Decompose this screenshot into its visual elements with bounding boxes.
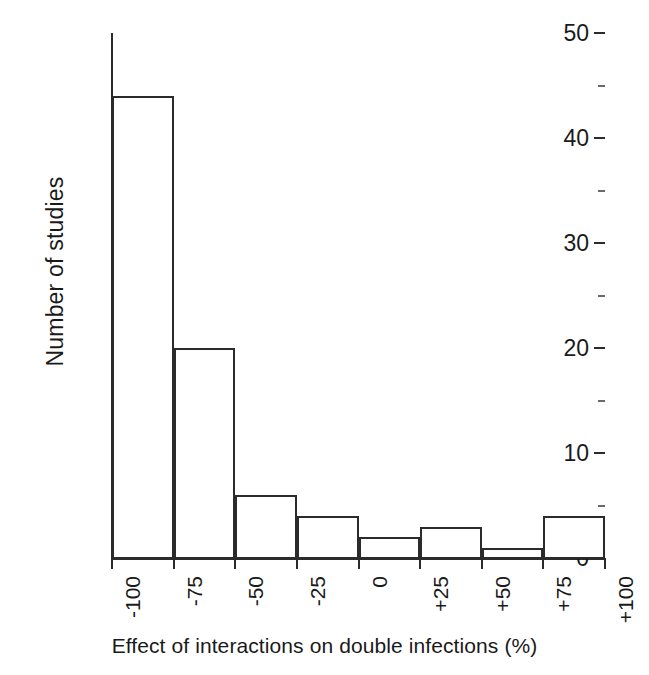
plot-area: 01020304050 -100-75-50-250+25+50+75+100 (112, 33, 605, 558)
y-tick-label: 20 (563, 335, 589, 362)
y-tick-major (594, 452, 605, 454)
histogram-figure: Number of studies 01020304050 -100-75-50… (0, 0, 649, 675)
y-axis-title: Number of studies (42, 122, 69, 422)
y-tick-major (594, 137, 605, 139)
histogram-bar (112, 96, 174, 559)
histogram-bar (543, 516, 605, 559)
x-tick (173, 558, 175, 569)
x-tick-label: +25 (429, 576, 453, 612)
x-tick-label: -50 (244, 576, 268, 606)
y-tick-label: 40 (563, 125, 589, 152)
histogram-bar (235, 495, 297, 559)
histogram-bar (174, 348, 236, 559)
y-tick-minor (598, 85, 605, 87)
x-tick-label: -25 (306, 576, 330, 606)
histogram-bar (297, 516, 359, 559)
histogram-bar (420, 527, 482, 560)
y-tick-label: 10 (563, 440, 589, 467)
x-tick (296, 558, 298, 569)
y-tick-label: 50 (563, 20, 589, 47)
y-tick-minor (598, 400, 605, 402)
y-tick-minor (598, 505, 605, 507)
y-tick-major (594, 347, 605, 349)
x-tick (542, 558, 544, 569)
x-tick (234, 558, 236, 569)
x-tick-label: +75 (552, 576, 576, 612)
x-tick (358, 558, 360, 569)
x-tick-label: 0 (368, 576, 392, 588)
histogram-bar (482, 548, 544, 560)
x-tick-label: -75 (183, 576, 207, 606)
y-tick-label: 30 (563, 230, 589, 257)
x-tick (604, 558, 606, 569)
x-tick-label: +50 (491, 576, 515, 612)
x-tick (481, 558, 483, 569)
y-tick-major (594, 32, 605, 34)
y-tick-minor (598, 190, 605, 192)
x-tick (419, 558, 421, 569)
histogram-bar (359, 537, 421, 559)
x-tick-label: +100 (614, 576, 638, 623)
y-tick-major (594, 242, 605, 244)
y-tick-minor (598, 295, 605, 297)
x-axis-title: Effect of interactions on double infecti… (0, 634, 649, 658)
x-tick-label: -100 (121, 576, 145, 618)
x-tick (111, 558, 113, 569)
